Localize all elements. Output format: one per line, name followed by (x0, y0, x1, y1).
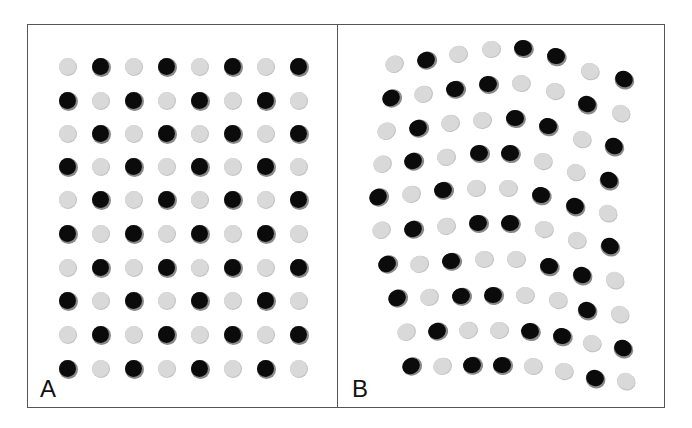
panel-a-dot (158, 92, 175, 109)
panel-a-dot (257, 58, 274, 75)
panel-a-dot (59, 92, 76, 109)
panel-a-dot (257, 292, 274, 309)
panel-a-dot (191, 360, 208, 377)
panel-a-dot (290, 326, 307, 343)
panel-a-dot (191, 259, 208, 276)
panel-a-dot (92, 92, 109, 109)
panel-a-dot (125, 360, 142, 377)
panel-a-dot (125, 92, 142, 109)
panel-a-dot (257, 92, 274, 109)
panel-a-dot (158, 58, 175, 75)
panel-a-dot (158, 191, 175, 208)
panel-a-dot (224, 191, 241, 208)
panel-a-dot (224, 225, 241, 242)
panel-a-dot (158, 158, 175, 175)
panel-a-dot (92, 360, 109, 377)
panel-a-dot (125, 125, 142, 142)
panel-a-dot (224, 360, 241, 377)
panel-a-dot (290, 58, 307, 75)
panel-a-dot (92, 58, 109, 75)
panel-a-dot (290, 125, 307, 142)
panel-a-dot (257, 158, 274, 175)
panel-a-dot (290, 92, 307, 109)
panel-a-dot (290, 225, 307, 242)
panel-a-dot (158, 360, 175, 377)
panel-a-dot (158, 292, 175, 309)
panel-a-dot (125, 259, 142, 276)
panel-a-dot (290, 191, 307, 208)
panel-a-dot (191, 225, 208, 242)
panel-a-dot (125, 225, 142, 242)
panel-divider (337, 24, 338, 408)
panel-a-dot (59, 191, 76, 208)
panel-a-dot (158, 259, 175, 276)
panel-a-dot (125, 58, 142, 75)
panel-a-label: A (40, 377, 56, 401)
panel-a-dot (125, 292, 142, 309)
panel-a-dot (224, 326, 241, 343)
panel-a-dot (224, 92, 241, 109)
panel-a-dot (92, 158, 109, 175)
panel-a-dot (59, 326, 76, 343)
panel-a-dot (191, 125, 208, 142)
panel-a-dot (92, 292, 109, 309)
panel-a-dot (191, 326, 208, 343)
panel-a-dot (125, 326, 142, 343)
panel-a-dot (59, 360, 76, 377)
panel-a-dot (290, 259, 307, 276)
panel-a-dot (224, 158, 241, 175)
panel-a-dot (224, 259, 241, 276)
panel-a-dot (92, 259, 109, 276)
panel-a-dot (59, 58, 76, 75)
panel-a-dot (224, 125, 241, 142)
panel-a-dot (290, 292, 307, 309)
panel-b-label: B (352, 377, 368, 401)
panel-a-dot (158, 225, 175, 242)
panel-a-dot (59, 259, 76, 276)
panel-a-dot (257, 326, 274, 343)
panel-a-dot (158, 125, 175, 142)
panel-a-dot (125, 191, 142, 208)
panel-a-dot (92, 125, 109, 142)
panel-a-dot (257, 191, 274, 208)
panel-a-dot (290, 158, 307, 175)
panel-a-dot (191, 158, 208, 175)
panel-a-dot (59, 292, 76, 309)
panel-a-dot (224, 58, 241, 75)
figure-frame (27, 24, 665, 408)
panel-a-dot (59, 225, 76, 242)
panel-a-dot (224, 292, 241, 309)
panel-a-dot (257, 360, 274, 377)
panel-a-dot (191, 191, 208, 208)
panel-a-dot (191, 292, 208, 309)
panel-a-dot (191, 58, 208, 75)
panel-a-dot (92, 326, 109, 343)
panel-a-dot (257, 125, 274, 142)
panel-a-dot (257, 225, 274, 242)
panel-a-dot (290, 360, 307, 377)
panel-a-dot (257, 259, 274, 276)
panel-a-dot (92, 225, 109, 242)
panel-a-dot (125, 158, 142, 175)
panel-a-dot (59, 125, 76, 142)
panel-a-dot (59, 158, 76, 175)
panel-a-dot (158, 326, 175, 343)
panel-a-dot (191, 92, 208, 109)
panel-a-dot (92, 191, 109, 208)
